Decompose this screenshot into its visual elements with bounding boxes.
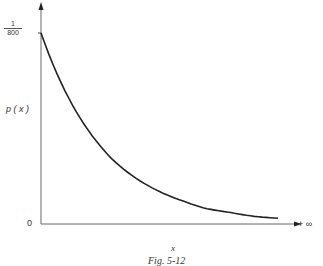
figure-caption: Fig. 5-12: [148, 255, 185, 266]
x-axis-label: x: [171, 243, 175, 253]
y-axis-label: p ( x ): [6, 104, 29, 114]
origin-label: 0: [27, 218, 32, 228]
y-tick-numerator: 1: [4, 20, 22, 29]
y-tick-denominator: 800: [4, 29, 22, 37]
y-axis-arrow-icon: [39, 2, 44, 10]
x-axis-end-label: + ∞: [298, 219, 312, 229]
density-curve: [41, 33, 278, 218]
y-tick-label: 1 800: [4, 20, 22, 37]
chart-canvas: [0, 0, 323, 266]
